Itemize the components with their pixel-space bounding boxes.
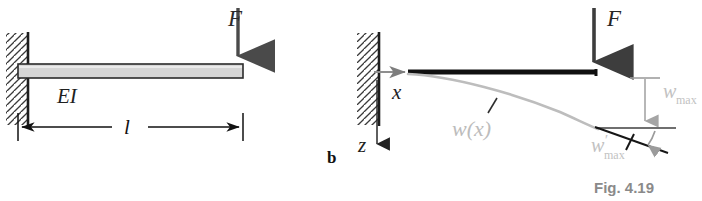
panel-b-group: F x z w(x) w max w ′ max b [327,6,697,167]
wmax-label-b: w max [663,80,697,107]
wmax-slope-label-prime: ′ [604,132,608,148]
wmax-slope-label-subscript: max [604,148,625,162]
wall-support-a [6,32,28,126]
length-label-a: l [124,115,130,139]
deflection-curve-label-b: w(x) [452,116,491,141]
force-label-b: F [606,6,622,31]
figure-container: F EI l [0,0,702,201]
stiffness-label-a: EI [56,84,78,108]
x-axis-label-b: x [391,80,402,104]
wmax-label-subscript: max [676,93,697,107]
slope-angle-arc-b [648,131,655,145]
force-label-a: F [227,6,243,31]
wmax-slope-label-base: w [591,134,605,156]
beam-a [18,64,243,78]
z-axis-label-b: z [357,133,366,157]
wall-support-b [357,32,379,126]
wall-hatching-b [357,33,379,125]
panel-letter-b: b [327,148,336,167]
tangent-cross-tick-b [626,134,634,150]
engineering-figure: F EI l [0,0,702,201]
figure-caption: Fig. 4.19 [594,179,654,196]
wx-leader-line-b [488,98,497,113]
panel-a-group: F EI l [6,6,243,141]
deflection-curve-b [408,74,598,129]
wall-hatching-a [6,33,28,125]
wmax-label-base: w [663,80,677,102]
